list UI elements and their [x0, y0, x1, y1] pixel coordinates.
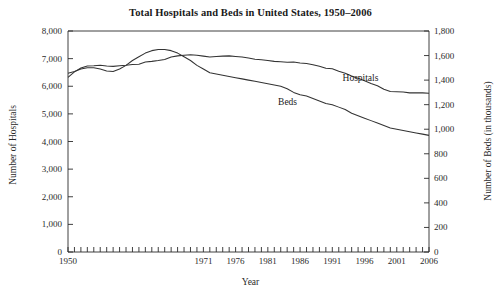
y-tick-label-left: 5,000 — [18, 109, 62, 119]
y-tick-label-left: 8,000 — [18, 26, 62, 36]
y-tick-label-right: 200 — [434, 222, 448, 232]
y-tick-label-left: 3,000 — [18, 164, 62, 174]
y-tick-label-right: 1,400 — [434, 75, 454, 85]
x-tick-label: 1950 — [59, 256, 77, 266]
y-tick-label-right: 600 — [434, 173, 448, 183]
y-tick-label-left: 0 — [18, 247, 62, 257]
series-label-hospitals: Hospitals — [343, 73, 379, 83]
x-tick-label: 1971 — [194, 256, 212, 266]
tick-marks — [68, 31, 429, 252]
x-tick-label: 1986 — [291, 256, 309, 266]
series-line-beds — [68, 49, 429, 135]
chart-figure: Total Hospitals and Beds in United State… — [0, 0, 501, 302]
series-paths — [68, 49, 429, 135]
y-tick-label-right: 800 — [434, 149, 448, 159]
x-tick-label: 2006 — [420, 256, 438, 266]
y-tick-label-left: 1,000 — [18, 219, 62, 229]
y-tick-label-right: 1,600 — [434, 51, 454, 61]
x-tick-label: 1976 — [227, 256, 245, 266]
y-tick-label-right: 400 — [434, 198, 448, 208]
y-tick-label-right: 1,000 — [434, 124, 454, 134]
axis-lines — [68, 31, 429, 252]
x-tick-label: 1991 — [323, 256, 341, 266]
y-tick-label-right: 1,200 — [434, 100, 454, 110]
y-tick-label-left: 4,000 — [18, 137, 62, 147]
x-tick-label: 2001 — [388, 256, 406, 266]
y-tick-label-left: 7,000 — [18, 54, 62, 64]
x-tick-label: 1996 — [356, 256, 374, 266]
x-tick-label: 1981 — [259, 256, 277, 266]
y-tick-label-left: 2,000 — [18, 192, 62, 202]
y-tick-label-right: 1,800 — [434, 26, 454, 36]
y-tick-label-left: 6,000 — [18, 81, 62, 91]
series-label-beds: Beds — [278, 97, 297, 107]
